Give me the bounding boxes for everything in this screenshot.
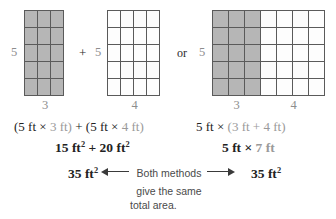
- grid-cell: [134, 45, 147, 62]
- grid-cell: [229, 62, 245, 79]
- eq-token-5ft-a: 5 ft: [18, 119, 36, 134]
- eq-token-times-b: ×: [108, 119, 122, 134]
- eq-exponent-4: 2: [277, 166, 281, 175]
- eq-token-7ft: 7 ft: [256, 140, 275, 155]
- eq-exponent-3: 2: [94, 166, 98, 175]
- eq-token-3ft-b: 3 ft: [232, 119, 250, 134]
- grid-cell: [213, 11, 229, 28]
- grid-cell: [121, 28, 134, 45]
- grid-cell: [25, 28, 38, 45]
- grid-cell: [277, 11, 293, 28]
- eq-exponent-2: 2: [125, 140, 129, 149]
- grid-cell: [38, 79, 51, 96]
- grid-cell: [134, 79, 147, 96]
- grid-cell: [245, 79, 261, 96]
- eq-token-plus-a: +: [72, 119, 86, 134]
- left-equation-line2: 15 ft2 + 20 ft2: [55, 141, 130, 155]
- right-equation-line2: 5 ft × 7 ft: [222, 141, 275, 155]
- grid-cell: [309, 79, 325, 96]
- figure-canvas: 5 3 + 5 4 or 5 3 4 (5 ft × 3 ft) + (5 ft…: [0, 0, 336, 219]
- caption-line-3: total area.: [126, 199, 216, 213]
- grid-cell: [245, 28, 261, 45]
- grid-a-width-label: 3: [24, 99, 66, 112]
- grid-cell: [261, 62, 277, 79]
- right-arrow-icon: [207, 167, 235, 176]
- grid-b-height-label: 5: [95, 46, 101, 59]
- left-equation-line1: (5 ft × 3 ft) + (5 ft × 4 ft): [14, 120, 144, 133]
- grid-cell: [213, 45, 229, 62]
- eq-token-20ft: 20 ft: [100, 140, 126, 155]
- grid-c-width-label-4: 4: [261, 99, 326, 112]
- grid-cell: [134, 62, 147, 79]
- caption-line-2: give the same: [126, 185, 212, 199]
- grid-cell: [25, 11, 38, 28]
- eq-token-plus-b: +: [85, 140, 99, 155]
- eq-token-plus-c: +: [250, 119, 264, 134]
- grid-cell: [134, 11, 147, 28]
- grid-cell: [293, 62, 309, 79]
- eq-token-close-paren-b: ): [139, 119, 143, 134]
- grid-cell: [309, 28, 325, 45]
- eq-token-4ft-b: 4 ft: [263, 119, 281, 134]
- grid-cell: [108, 28, 121, 45]
- eq-token-5ft-b: 5 ft: [90, 119, 108, 134]
- grid-cell: [277, 45, 293, 62]
- grid-cell: [147, 11, 160, 28]
- grid-cell: [245, 45, 261, 62]
- grid-cell: [38, 62, 51, 79]
- grid-cell: [245, 11, 261, 28]
- eq-token-times-c: ×: [214, 119, 228, 134]
- grid-c-wrapper: [212, 10, 325, 96]
- grid-c-width-label-3: 3: [212, 99, 261, 112]
- right-arrow-head: [228, 168, 235, 176]
- grid-cell: [261, 45, 277, 62]
- grid-cell: [51, 45, 64, 62]
- grid-cell: [121, 62, 134, 79]
- grid-cell: [293, 45, 309, 62]
- grid-cell: [51, 28, 64, 45]
- right-equation-line3: 35 ft2: [251, 167, 281, 181]
- grid-cell: [309, 11, 325, 28]
- grid-cell: [121, 11, 134, 28]
- grid-a: [24, 10, 64, 96]
- grid-cell: [51, 62, 64, 79]
- grid-cell: [261, 79, 277, 96]
- grid-cell: [51, 11, 64, 28]
- grid-cell: [229, 28, 245, 45]
- grid-cell: [25, 62, 38, 79]
- plus-operator: +: [79, 46, 86, 59]
- left-arrow-shaft: [107, 171, 129, 172]
- grid-cell: [108, 45, 121, 62]
- grid-cell: [261, 11, 277, 28]
- grid-cell: [38, 45, 51, 62]
- grid-cell: [121, 79, 134, 96]
- eq-token-4ft-a: 4 ft: [122, 119, 140, 134]
- eq-token-35ft-left: 35 ft: [68, 166, 94, 181]
- grid-cell: [213, 62, 229, 79]
- grid-b: [107, 10, 160, 96]
- eq-token-5ft-c: 5 ft: [196, 119, 214, 134]
- grid-cell: [147, 45, 160, 62]
- grid-cell: [293, 28, 309, 45]
- eq-token-close-paren-c: ): [281, 119, 285, 134]
- grid-cell: [245, 62, 261, 79]
- grid-cell: [121, 45, 134, 62]
- grid-cell: [38, 28, 51, 45]
- grid-b-width-label: 4: [107, 99, 162, 112]
- eq-token-3ft-a: 3 ft: [50, 119, 68, 134]
- left-arrow-icon: [101, 167, 129, 176]
- grid-cell: [108, 79, 121, 96]
- grid-cell: [293, 79, 309, 96]
- grid-cell: [25, 79, 38, 96]
- eq-token-35ft-right: 35 ft: [251, 166, 277, 181]
- grid-cell: [51, 79, 64, 96]
- grid-cell: [108, 11, 121, 28]
- eq-token-times-d: ×: [241, 140, 255, 155]
- grid-a-wrapper: [24, 10, 64, 96]
- grid-cell: [277, 79, 293, 96]
- left-equation-line3: 35 ft2: [68, 167, 98, 181]
- grid-cell: [147, 62, 160, 79]
- grid-b-wrapper: [107, 10, 160, 96]
- right-arrow-shaft: [207, 171, 229, 172]
- right-equation-line1: 5 ft × (3 ft + 4 ft): [196, 120, 285, 133]
